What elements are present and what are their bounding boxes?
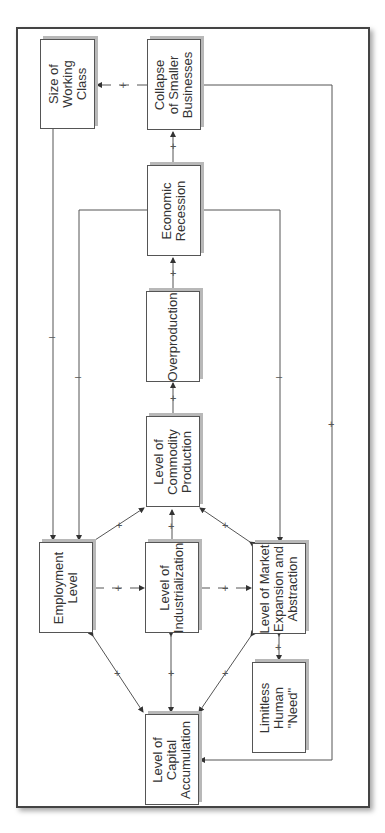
edge-collapse-capital xyxy=(200,85,332,760)
sign-collapse-working-class: + xyxy=(120,79,126,91)
node-label: Size of Working Class xyxy=(47,60,89,107)
node-label: Limitless Human "Need" xyxy=(258,682,300,733)
sign-commodity-overproduction: + xyxy=(170,392,176,404)
node-label: Level of Capital Accumulation xyxy=(151,720,193,798)
sign-capital-industrialization: + xyxy=(168,667,174,679)
node-overproduction: Overproduction xyxy=(146,291,200,382)
node-label: Level of Commodity Production xyxy=(152,429,194,495)
node-label: Collapse of Smaller Businesses xyxy=(153,51,195,117)
node-level-of-industrialization: Level of Industrialization xyxy=(145,542,199,633)
node-label: Level of Industrialization xyxy=(158,542,186,632)
node-economic-recession: Economic Recession xyxy=(147,165,201,256)
sign-working-class-employment: – xyxy=(49,330,56,342)
sign-employment-industrialization: + xyxy=(115,582,121,594)
node-label: Economic Recession xyxy=(160,180,188,241)
sign-collapse-capital: + xyxy=(328,418,334,430)
sign-capital-market: + xyxy=(222,667,228,679)
node-size-of-working-class: Size of Working Class xyxy=(40,39,95,129)
sign-market-commodity: + xyxy=(222,519,228,531)
node-label: Level of Market Expansion and Abstractio… xyxy=(258,544,300,633)
sign-recession-employment: – xyxy=(75,370,82,382)
causal-diagram: + + + + – – – + + + + + + + + + + Size o… xyxy=(0,0,385,833)
node-level-of-commodity-production: Level of Commodity Production xyxy=(146,416,200,507)
sign-industrialization-market: + xyxy=(222,582,228,594)
node-collapse-of-smaller-businesses: Collapse of Smaller Businesses xyxy=(147,39,201,130)
node-level-of-capital-accumulation: Level of Capital Accumulation xyxy=(145,714,199,805)
sign-market-need: + xyxy=(275,641,281,653)
sign-overproduction-recession: + xyxy=(170,267,176,279)
node-label: Overproduction xyxy=(166,292,180,381)
sign-employment-commodity: + xyxy=(116,519,122,531)
sign-recession-collapse: + xyxy=(170,140,176,152)
sign-industrialization-commodity: + xyxy=(168,520,174,532)
sign-recession-market: – xyxy=(276,370,283,382)
node-level-of-market-expansion: Level of Market Expansion and Abstractio… xyxy=(252,543,306,634)
node-label: Employment Level xyxy=(52,551,80,623)
node-limitless-human-need: Limitless Human "Need" xyxy=(252,662,306,753)
edge-recession-employment xyxy=(79,210,147,540)
edge-recession-market xyxy=(201,210,280,542)
node-employment-level: Employment Level xyxy=(39,542,93,633)
sign-capital-employment: + xyxy=(114,667,120,679)
